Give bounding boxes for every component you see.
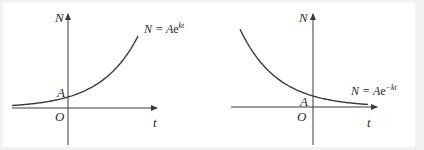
equation-lhs: N = A <box>350 84 381 98</box>
y-axis-label: N <box>54 10 65 25</box>
growth-curve <box>12 36 138 105</box>
decay-equation: N = Ae−kt <box>350 83 397 98</box>
intercept-label: A <box>299 94 308 109</box>
equation-exponent: −kt <box>386 83 398 92</box>
growth-equation: N = Aekt <box>143 21 185 36</box>
intercept-label: A <box>56 85 65 100</box>
equation-exponent: kt <box>179 21 186 30</box>
x-axis-label: t <box>367 115 371 130</box>
equation-lhs: N = A <box>143 22 174 36</box>
origin-label: O <box>297 109 307 124</box>
decay-graph: N t O A N = Ae−kt <box>231 10 397 145</box>
exponential-graphs: N t O A N = Aekt N t O A N = Ae−kt <box>0 0 424 150</box>
x-axis-label: t <box>153 115 157 130</box>
y-axis-label: N <box>298 10 309 25</box>
growth-graph: N t O A N = Aekt <box>12 10 185 145</box>
origin-label: O <box>55 109 65 124</box>
